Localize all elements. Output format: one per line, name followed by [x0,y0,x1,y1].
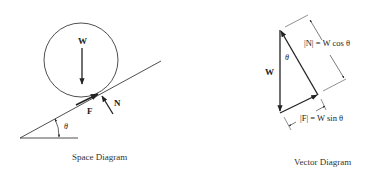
f-extension-left [284,117,291,130]
incline-line [20,61,161,138]
normal-magnitude-label: |N| = W cos θ [304,38,350,48]
diagram-canvas [0,0,375,175]
f-extension-right [321,99,326,110]
n-dimension-line [310,20,322,40]
angle-label: θ [64,122,68,131]
vector-angle-label: θ [285,53,289,62]
friction-label: F [87,106,93,116]
vector-diagram-caption: Vector Diagram [294,157,351,167]
space-diagram-caption: Space Diagram [72,152,127,162]
n-extension-bottom [323,79,346,91]
weight-label: W [78,36,87,46]
friction-arrow-icon [76,94,98,105]
normal-label: N [114,98,121,108]
angle-arc-icon [55,119,59,137]
space-diagram [20,23,161,138]
vector-friction-arrow-icon [280,95,317,113]
vector-weight-label: W [265,67,274,77]
normal-arrow-icon [102,96,113,114]
n-extension-top [285,15,308,27]
f-dimension-line-right [316,106,325,111]
friction-magnitude-label: |F| = W sin θ [300,113,343,123]
cylinder [44,23,118,97]
f-dimension-line-left [289,122,296,126]
n-dimension-line-2 [330,55,344,78]
